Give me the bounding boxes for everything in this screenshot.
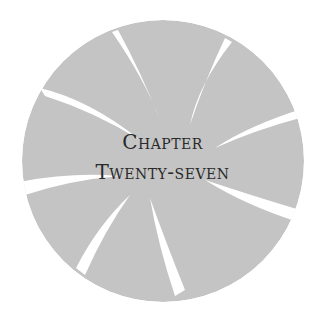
chapter-label: Chapter — [0, 130, 325, 154]
chapter-number: Twenty-seven — [0, 160, 325, 184]
